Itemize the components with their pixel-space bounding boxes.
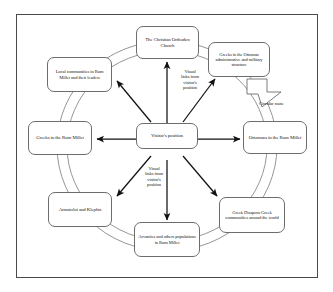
diagram-canvas: The Christian Orthodox Church Greeks in … [0,0,333,292]
node-ottomans-rum-millet[interactable]: Ottomans in the Rum Millet [243,121,307,154]
node-local-communities[interactable]: Local communities in Rum Millet and thei… [47,57,112,92]
node-arvanites-others[interactable]: Arvanites and others populations in Rum … [134,222,200,257]
node-label: Greek Diaspora Greek communities around … [222,210,282,220]
node-label: Arvanites and others populations in Rum … [137,234,197,244]
annotation-visual-links-bottom: Visual links from visitor's position [134,166,174,187]
node-greek-diaspora[interactable]: Greek Diaspora Greek communities around … [219,197,285,233]
node-greeks-rum-millet[interactable]: Greeks in the Rum Millet [28,121,92,155]
node-label: Local communities in Rum Millet and thei… [50,69,109,79]
node-label: The Christian Orthodox Church [139,37,196,48]
node-label: Greeks in the Ottoman administrative and… [211,52,267,67]
node-visitors-position[interactable]: Visitor's position [136,123,198,149]
node-christian-orthodox-church[interactable]: The Christian Orthodox Church [136,26,199,59]
node-greeks-ottoman-structure[interactable]: Greeks in the Ottoman administrative and… [208,42,270,77]
node-label: Visitor's position [139,133,195,139]
node-label: Greeks in the Rum Millet [31,135,89,140]
node-label: Armatoloi and Klephts [51,207,109,212]
annotation-visual-links-top: Visual links from visitor's position [170,69,210,90]
node-armatoloi-klephts[interactable]: Armatoloi and Klephts [48,192,112,227]
node-label: Ottomans in the Rum Millet [246,135,304,140]
annotation-circular-route: Circular route [259,101,313,106]
